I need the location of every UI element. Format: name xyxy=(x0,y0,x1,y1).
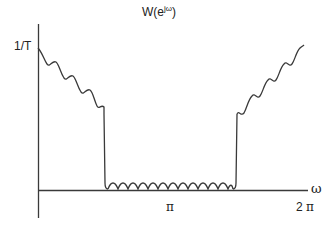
x-axis-label: ω xyxy=(311,182,322,195)
y-tick-label: 1/T xyxy=(14,40,31,52)
left-transition-edge xyxy=(104,114,108,189)
x-tick-2pi-coefficient: 2 xyxy=(296,200,303,214)
title-base: W(e xyxy=(142,5,164,19)
diagram-title: W(ejω) xyxy=(142,5,176,18)
diagram-canvas xyxy=(0,0,334,228)
right-rippled-curve xyxy=(237,45,304,114)
frequency-response-diagram: W(ejω) 1/T π 2 π ω xyxy=(0,0,334,228)
title-superscript: jω xyxy=(164,4,172,13)
x-tick-2pi: 2 π xyxy=(296,201,314,213)
left-rippled-curve xyxy=(38,48,104,114)
right-transition-edge xyxy=(233,114,237,189)
x-tick-pi: π xyxy=(166,201,174,213)
title-close: ) xyxy=(172,5,176,19)
x-tick-2pi-symbol: π xyxy=(306,200,314,214)
stopband-ripples xyxy=(108,183,233,189)
